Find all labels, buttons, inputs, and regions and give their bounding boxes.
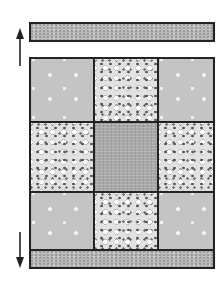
side-square-left <box>31 123 93 191</box>
center-square <box>95 123 157 191</box>
corner-square-top-right <box>159 59 213 121</box>
nine-patch-grid <box>29 57 215 251</box>
corner-square-top-left <box>31 59 93 121</box>
side-square-right <box>159 123 213 191</box>
top-border-strip <box>29 22 215 42</box>
up-arrow-icon <box>14 28 26 66</box>
corner-square-bottom-right <box>159 193 213 249</box>
bottom-border-strip <box>29 249 215 269</box>
corner-square-bottom-left <box>31 193 93 249</box>
side-square-bottom <box>95 193 157 249</box>
down-arrow-icon <box>14 232 26 268</box>
side-square-top <box>95 59 157 121</box>
